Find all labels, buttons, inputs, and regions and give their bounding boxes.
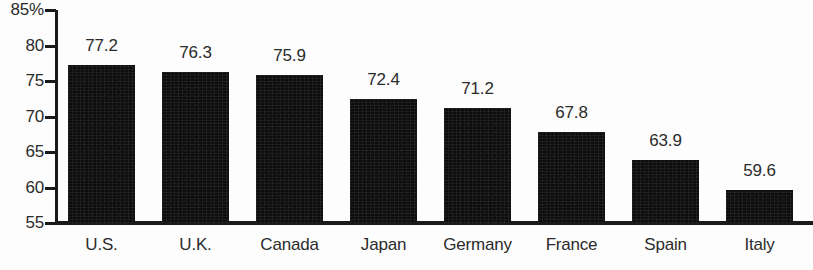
y-axis-tick-label: 55 (0, 214, 44, 231)
y-axis-tick-label: 65 (0, 143, 44, 160)
y-axis-tick (45, 80, 56, 83)
y-axis-tick (45, 187, 56, 190)
y-axis-tick-label: 70 (0, 108, 44, 125)
y-axis-tick (45, 45, 56, 48)
x-axis-labels: U.S.U.K.CanadaJapanGermanyFranceSpainIta… (58, 0, 813, 270)
y-axis-tick-label: 85% (0, 1, 44, 18)
y-axis-tick-label: 75 (0, 72, 44, 89)
y-axis-tick-label: 60 (0, 179, 44, 196)
y-axis-labels: 85%807570656055 (0, 0, 44, 270)
x-axis-category-label: Italy (704, 236, 813, 254)
y-axis-tick (45, 9, 56, 12)
y-axis-tick (45, 116, 56, 119)
y-axis-tick-label: 80 (0, 37, 44, 54)
y-axis-tick (45, 151, 56, 154)
y-axis-tick (45, 222, 56, 225)
bar-chart: 85%807570656055 77.276.375.972.471.267.8… (0, 0, 813, 270)
